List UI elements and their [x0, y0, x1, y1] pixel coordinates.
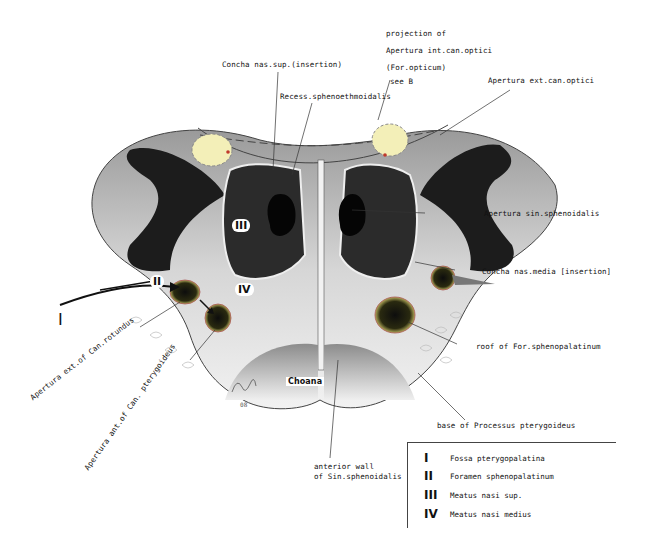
optic-projection-right: [372, 124, 408, 156]
legend-text: Meatus nasi sup.: [450, 491, 522, 500]
canal-right-lower: [375, 297, 415, 333]
legend-text: Fossa pterygopalatina: [450, 454, 545, 463]
marker-III: III: [232, 219, 250, 232]
arrow-fossa: [60, 286, 175, 305]
label-apertura-ext-optici: Apertura ext.can.optici: [488, 76, 594, 85]
label-projection-4: see B: [390, 77, 413, 86]
legend-numeral: III: [424, 488, 437, 502]
legend-row: I Fossa pterygopalatina: [408, 451, 616, 469]
legend-box: I Fossa pterygopalatina II Foramen sphen…: [407, 442, 616, 528]
legend-numeral: IV: [424, 507, 438, 521]
legend-numeral: I: [424, 451, 428, 465]
label-base-processus: base of Processus pterygoideus: [437, 421, 575, 430]
sinus-septum: [318, 160, 324, 370]
anatomy-figure: projection of Apertura int.can.optici (F…: [0, 0, 645, 551]
legend-row: II Foramen sphenopalatinum: [408, 469, 616, 487]
label-anterior-wall-2: of Sin.sphenoidalis: [314, 472, 402, 481]
label-anterior-wall-1: anterior wall: [314, 462, 374, 471]
legend-text: Foramen sphenopalatinum: [450, 472, 554, 481]
legend-text: Meatus nasi medius: [450, 510, 531, 519]
marker-II: II: [150, 275, 164, 288]
label-concha-media: Concha nas.media [insertion]: [482, 267, 611, 276]
label-signature: 08: [240, 400, 247, 409]
legend-numeral: II: [424, 469, 433, 483]
label-recess: Recess.sphenoethmoidalis: [280, 92, 391, 101]
label-choana: Choana: [286, 377, 324, 386]
marker-IV: IV: [235, 283, 254, 296]
label-apertura-sin: Apertura sin.sphenoidalis: [484, 209, 599, 218]
marker-I: I: [58, 310, 63, 329]
legend-row: III Meatus nasi sup.: [408, 488, 616, 506]
label-projection-2: Apertura int.can.optici: [386, 46, 492, 55]
label-projection-1: projection of: [386, 29, 446, 38]
label-projection-3: (For.opticum): [386, 63, 446, 72]
optic-projection-left: [192, 134, 232, 166]
label-roof-for: roof of For.sphenopalatinum: [476, 342, 601, 351]
legend-row: IV Meatus nasi medius: [408, 507, 616, 525]
foramen-sphenopalatinum: [170, 280, 200, 304]
label-concha-sup: Concha nas.sup.(insertion): [222, 60, 342, 69]
